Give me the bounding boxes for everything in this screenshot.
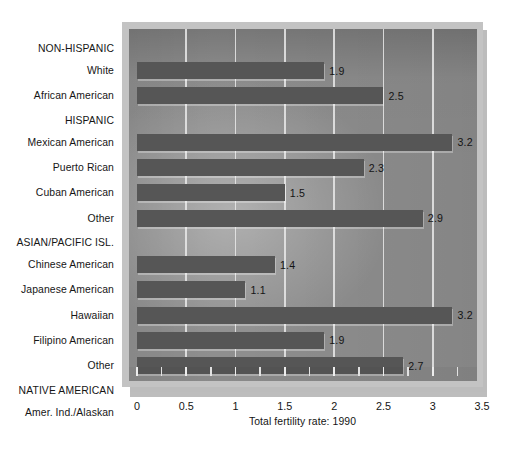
category-label: Mexican American <box>28 137 115 148</box>
bar-value-label: 2.3 <box>369 161 384 175</box>
x-tick-label: 1 <box>233 400 239 413</box>
x-tick-label: 2 <box>331 400 337 413</box>
group-heading-label: ASIAN/PACIFIC ISL. <box>17 237 114 248</box>
x-axis-rule <box>130 392 487 397</box>
x-axis-minor-tick <box>457 367 459 376</box>
group-heading-label: HISPANIC <box>65 115 114 126</box>
bar-value-label: 1.9 <box>329 333 344 347</box>
category-label: Chinese American <box>28 259 114 270</box>
x-axis-tick <box>333 367 335 376</box>
category-axis-labels: NON-HISPANICWhiteAfrican AmericanHISPANI… <box>0 22 118 385</box>
x-axis-minor-tick <box>161 367 163 376</box>
x-axis-tick <box>136 367 138 376</box>
bar <box>137 281 245 298</box>
category-label: Other <box>88 213 115 224</box>
x-axis-tick <box>383 367 385 376</box>
category-label: Puerto Rican <box>53 162 114 173</box>
bar-value-label: 3.2 <box>457 135 472 149</box>
plot-area: 1.92.53.22.31.52.91.41.13.21.92.72.2 <box>129 29 477 381</box>
category-label: Other <box>88 360 115 371</box>
x-tick-label: 3.5 <box>474 400 489 413</box>
x-tick-label: 2.5 <box>376 400 391 413</box>
bar-value-label: 2.9 <box>428 211 443 225</box>
category-label: Amer. Ind./Alaskan <box>25 407 114 418</box>
category-label: Filipino American <box>33 335 114 346</box>
bar <box>137 134 452 151</box>
bar <box>137 307 452 324</box>
bar-value-label: 1.5 <box>290 186 305 200</box>
category-label: Hawaiian <box>70 310 114 321</box>
bar <box>137 210 423 227</box>
bar <box>137 159 364 176</box>
bar <box>137 184 285 201</box>
axis-tick-strip <box>129 367 477 381</box>
x-axis-tick <box>235 367 237 376</box>
category-label: White <box>87 65 114 76</box>
plot-background: 1.92.53.22.31.52.91.41.13.21.92.72.2 <box>129 29 477 381</box>
x-axis-title: Total fertility rate: 1990 <box>122 416 483 427</box>
fertility-rate-bar-chart: NON-HISPANICWhiteAfrican AmericanHISPANI… <box>0 0 513 449</box>
x-tick-label: 1.5 <box>277 400 292 413</box>
plot-frame: 1.92.53.22.31.52.91.41.13.21.92.72.2 <box>122 22 483 387</box>
x-tick-label: 0.5 <box>179 400 194 413</box>
bar <box>137 87 383 104</box>
x-axis-tick <box>432 367 434 376</box>
x-axis-tick <box>284 367 286 376</box>
bar-value-label: 1.9 <box>329 64 344 78</box>
x-axis-minor-tick <box>259 367 261 376</box>
x-axis-tick <box>185 367 187 376</box>
category-label: Cuban American <box>36 187 114 198</box>
bar <box>137 256 275 273</box>
bar <box>137 62 324 79</box>
x-tick-label: 3 <box>430 400 436 413</box>
x-tick-label: 0 <box>134 400 140 413</box>
x-axis-minor-tick <box>309 367 311 376</box>
category-label: African American <box>34 90 114 101</box>
bar-value-label: 1.1 <box>250 283 265 297</box>
bar-value-label: 3.2 <box>457 308 472 322</box>
bar-value-label: 2.5 <box>388 89 403 103</box>
x-axis-minor-tick <box>358 367 360 376</box>
bar-value-label: 1.4 <box>280 258 295 272</box>
group-heading-label: NON-HISPANIC <box>38 43 114 54</box>
group-heading-label: NATIVE AMERICAN <box>19 385 114 396</box>
bar <box>137 332 324 349</box>
category-label: Japanese American <box>21 284 114 295</box>
x-axis-minor-tick <box>407 367 409 376</box>
x-axis-minor-tick <box>210 367 212 376</box>
